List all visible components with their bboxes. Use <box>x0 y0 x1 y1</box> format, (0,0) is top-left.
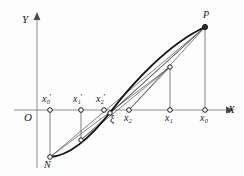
axis-label-x1-prime-base: x <box>73 93 77 104</box>
axis-label-x1: x1 <box>165 113 173 124</box>
marker-axis-x1-prime <box>79 108 84 113</box>
axis-label-x0-prime-base: x <box>42 93 46 104</box>
marker-curve-point-1 <box>79 138 83 142</box>
axis-label-x2-prime-mark: ′ <box>103 92 105 102</box>
axis-label-x2-prime: x2′ <box>96 93 105 105</box>
axis-label-x2-prime-base: x <box>96 93 100 104</box>
marker-point-P <box>202 24 207 29</box>
chord-P-to-c2 <box>110 27 205 113</box>
chord-c1-to-c3 <box>81 67 170 140</box>
axis-label-x1-sub: 1 <box>170 117 173 124</box>
axis-label-x0-prime: x0′ <box>42 93 51 105</box>
x-axis-label: X <box>228 104 235 115</box>
axis-label-x0: x0 <box>200 113 208 124</box>
axis-label-x0-sub: 0 <box>205 117 208 124</box>
axis-label-x2-sub: 2 <box>129 117 132 124</box>
y-axis-label: Y <box>22 14 28 25</box>
axis-label-x0-prime-mark: ′ <box>49 92 51 102</box>
point-P-label: P <box>203 10 209 20</box>
figure-canvas <box>0 0 244 176</box>
y-axis-arrowhead <box>34 12 41 20</box>
marker-axis-x2-prime <box>102 108 107 113</box>
geometry-figure: X Y O N P x0′ x1′ x2′ ξ x2 x1 x0 <box>0 0 244 176</box>
axis-label-x2: x2 <box>124 113 132 124</box>
point-N-label: N <box>44 160 51 170</box>
axis-label-x0-base: x <box>200 112 204 123</box>
origin-label: O <box>24 112 32 123</box>
axis-label-x1-prime: x1′ <box>73 93 82 105</box>
axis-label-x2-base: x <box>124 112 128 123</box>
axis-label-x1-base: x <box>165 112 169 123</box>
marker-axis-x0-prime <box>48 108 53 113</box>
marker-curve-point-3 <box>168 65 172 69</box>
axis-label-x1-prime-mark: ′ <box>80 92 82 102</box>
axes-group <box>14 12 234 168</box>
axis-label-xi: ξ <box>110 114 114 124</box>
